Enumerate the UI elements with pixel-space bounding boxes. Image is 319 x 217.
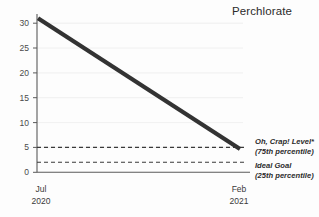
- data-series-line: [38, 18, 240, 149]
- annotation-ideal-goal-title: Ideal Goal: [255, 161, 292, 170]
- y-axis-labels: 0 5 10 15 20 25 30: [20, 18, 30, 177]
- y-tick-label: 20: [20, 68, 30, 78]
- annotation-oh-crap-level-title: Oh, Crap! Level*: [255, 137, 315, 146]
- x-tick-label-month: Jul: [36, 184, 47, 194]
- x-tick-label-year: 2021: [230, 196, 249, 206]
- annotation-ideal-goal-percentile: (25th percentile): [255, 171, 314, 180]
- y-tick-label: 0: [24, 167, 29, 177]
- annotation-oh-crap-level-percentile: (75th percentile): [255, 147, 314, 156]
- y-tick-label: 30: [20, 18, 30, 28]
- y-tick-label: 5: [24, 142, 29, 152]
- y-tick-label: 10: [20, 118, 30, 128]
- reference-annotations: Oh, Crap! Level* (75th percentile) Ideal…: [255, 137, 315, 180]
- y-tick-label: 15: [20, 93, 30, 103]
- x-axis-labels: Jul 2020 Feb 2021: [32, 184, 249, 206]
- chart-container: Perchlorate 0 5 10: [0, 0, 319, 217]
- chart-plot-area: 0 5 10 15 20 25 30 Jul 2020 Feb 2021 Oh,…: [0, 0, 319, 217]
- x-tick-label-month: Feb: [232, 184, 247, 194]
- x-tick-label-year: 2020: [32, 196, 51, 206]
- y-axis-ticks: [33, 23, 37, 172]
- y-tick-label: 25: [20, 43, 30, 53]
